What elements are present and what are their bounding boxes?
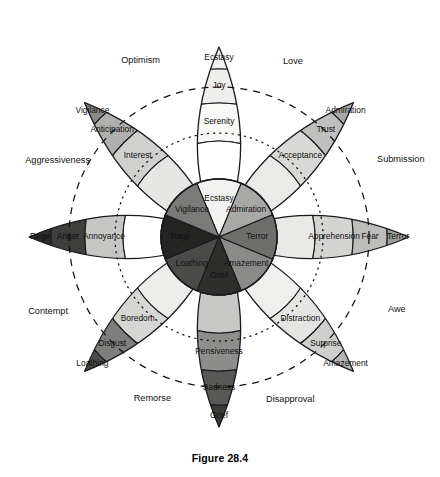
core-label-terror: Terror (246, 231, 268, 241)
petal-label-sadness: Sadness (203, 382, 236, 392)
petal-label-amazement: Amazement (323, 358, 368, 368)
dyad-label-contempt: Contempt (28, 306, 68, 316)
core-label-loathing: Loathing (176, 258, 208, 268)
petal-label-rage: Rage (30, 231, 50, 241)
core-label-grief: Grief (210, 270, 229, 280)
petal-label-annoyance: Annoyance (83, 231, 125, 241)
petal-label-apprehension: Apprehension (308, 231, 360, 241)
petal-label-distraction: Distraction (281, 313, 321, 323)
dyad-label-disapproval: Disapproval (266, 394, 315, 404)
core-label-admiration: Admiration (226, 204, 266, 214)
petal-label-joy: Joy (212, 80, 226, 90)
dyad-label-love: Love (283, 56, 303, 66)
petal-label-admiration: Admiration (326, 105, 366, 115)
core-label-amazement: Amazement (224, 258, 269, 268)
dyad-label-optimism: Optimism (121, 55, 160, 65)
petal-label-anticipation: Anticipation (91, 124, 135, 134)
petal-label-trust: Trust (316, 124, 335, 134)
petal-label-fear: Fear (361, 231, 378, 241)
petal-label-grief: Grief (210, 410, 229, 420)
petal-label-surprise: Surprise (310, 338, 342, 348)
figure-container: EcstasyJoySerenityAdmirationTrustAccepta… (0, 0, 440, 477)
petal-label-vigilance: Vigilance (75, 105, 109, 115)
petal-label-serenity: Serenity (204, 116, 236, 126)
plutchik-wheel-diagram: EcstasyJoySerenityAdmirationTrustAccepta… (0, 0, 440, 477)
figure-caption: Figure 28.4 (0, 452, 440, 464)
petal-label-ecstasy: Ecstasy (204, 52, 234, 62)
core-label-vigilance: Vigilance (175, 204, 209, 214)
dyad-label-awe: Awe (388, 304, 406, 314)
petal-label-pensiveness: Pensiveness (195, 346, 243, 356)
petal-label-disgust: Disgust (98, 338, 127, 348)
petal-label-loathing: Loathing (76, 358, 108, 368)
core-label-ecstasy: Ecstasy (204, 193, 234, 203)
petal-label-interest: Interest (124, 150, 153, 160)
dyad-label-submission: Submission (377, 154, 425, 164)
dyad-label-remorse: Remorse (134, 393, 171, 403)
petal-label-acceptance: Acceptance (278, 150, 322, 160)
petal-label-anger: Anger (57, 231, 80, 241)
dyad-label-aggressiveness: Aggressiveness (25, 155, 90, 165)
core-label-rage: Rage (171, 231, 191, 241)
petal-label-boredom: Boredom (121, 313, 155, 323)
petal-label-terror: Terror (387, 231, 409, 241)
